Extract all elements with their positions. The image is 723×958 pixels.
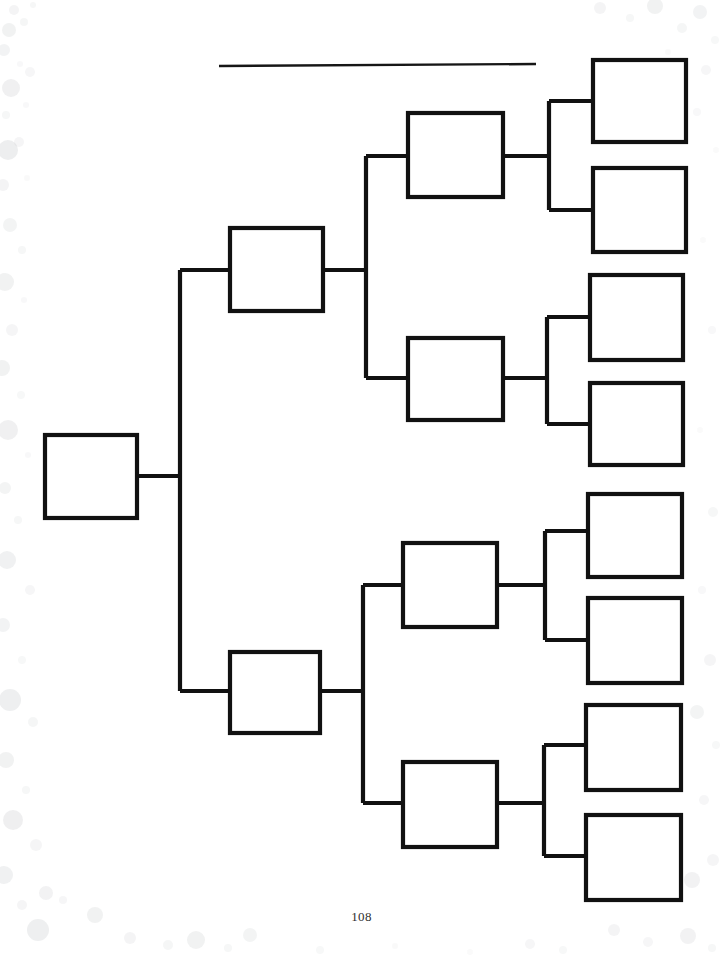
bracket-links — [137, 101, 593, 856]
box-outline[interactable] — [586, 815, 681, 900]
bracket-box-g4-8[interactable] — [586, 815, 681, 900]
bracket-box-g4-4[interactable] — [590, 383, 683, 465]
box-outline[interactable] — [590, 383, 683, 465]
bracket-box-g2-1[interactable] — [230, 228, 323, 311]
box-outline[interactable] — [408, 338, 503, 420]
box-outline[interactable] — [586, 705, 681, 790]
bracket-box-g4-1[interactable] — [593, 60, 686, 142]
box-outline[interactable] — [403, 762, 497, 847]
title-write-in-field[interactable] — [219, 44, 536, 64]
bracket-diagram — [0, 0, 723, 958]
blank-title-rule[interactable] — [219, 64, 536, 66]
box-outline[interactable] — [588, 494, 682, 577]
box-outline[interactable] — [230, 228, 323, 311]
worksheet-page: 108 — [0, 0, 723, 958]
bracket-box-g2-2[interactable] — [230, 652, 320, 733]
page-number: 108 — [0, 909, 723, 925]
box-outline[interactable] — [403, 543, 497, 627]
bracket-box-g4-3[interactable] — [590, 275, 683, 360]
box-outline[interactable] — [45, 435, 137, 518]
box-outline[interactable] — [408, 113, 503, 197]
bracket-box-g3-3[interactable] — [403, 543, 497, 627]
box-outline[interactable] — [588, 598, 682, 683]
bracket-box-g4-6[interactable] — [588, 598, 682, 683]
bracket-box-g4-5[interactable] — [588, 494, 682, 577]
bracket-box-g1-1[interactable] — [45, 435, 137, 518]
bracket-box-g4-2[interactable] — [593, 168, 686, 252]
bracket-box-g4-7[interactable] — [586, 705, 681, 790]
box-outline[interactable] — [230, 652, 320, 733]
bracket-box-g3-1[interactable] — [408, 113, 503, 197]
box-outline[interactable] — [593, 60, 686, 142]
bracket-box-g3-4[interactable] — [403, 762, 497, 847]
bracket-box-g3-2[interactable] — [408, 338, 503, 420]
box-outline[interactable] — [590, 275, 683, 360]
box-outline[interactable] — [593, 168, 686, 252]
